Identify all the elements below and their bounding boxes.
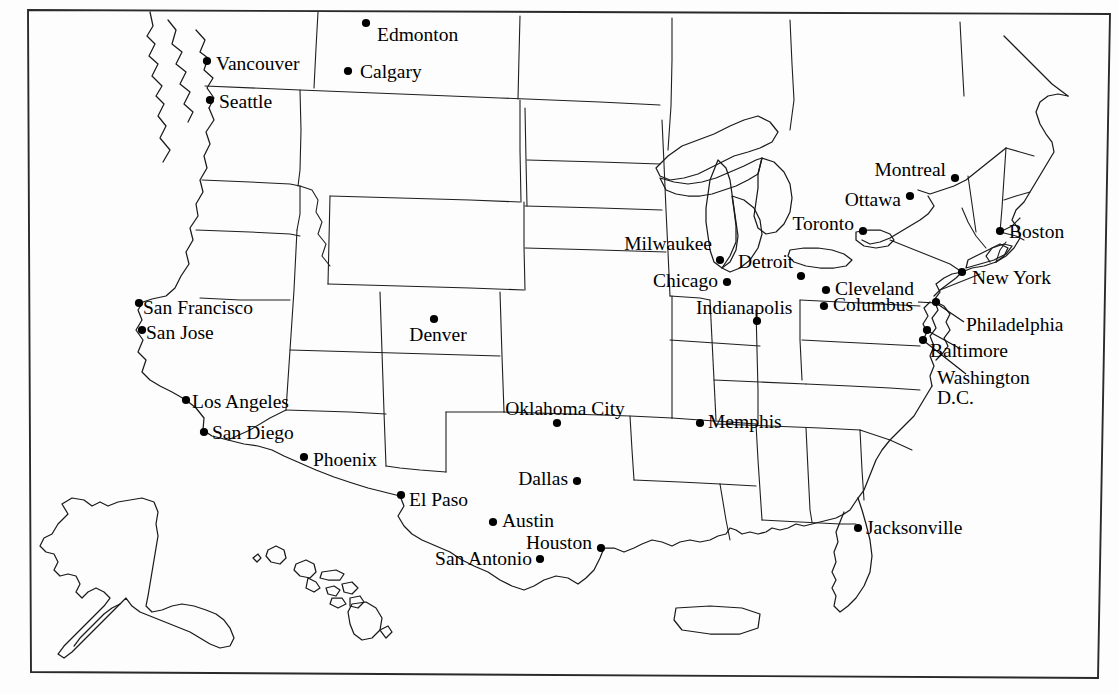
city-label-san-francisco: San Francisco xyxy=(143,298,253,318)
city-dot-vancouver[interactable] xyxy=(203,57,211,65)
city-label-detroit: Detroit xyxy=(738,252,793,272)
city-dot-calgary[interactable] xyxy=(344,67,352,75)
city-dot-san-jose[interactable] xyxy=(138,326,146,334)
city-label-calgary: Calgary xyxy=(360,62,422,82)
city-label-jacksonville: Jacksonville xyxy=(866,518,962,538)
city-label-memphis: Memphis xyxy=(708,412,782,432)
city-label-milwaukee: Milwaukee xyxy=(624,234,712,254)
city-label-oklahoma-city: Oklahoma City xyxy=(505,399,625,419)
city-label-san-diego: San Diego xyxy=(212,423,294,443)
city-dot-montreal[interactable] xyxy=(951,174,959,182)
city-label-baltimore: Baltimore xyxy=(930,341,1008,361)
city-label-new-york: New York xyxy=(972,268,1051,288)
city-dot-cleveland[interactable] xyxy=(822,286,830,294)
city-label-seattle: Seattle xyxy=(219,92,272,112)
alaska-inset xyxy=(40,498,234,658)
city-dot-boston[interactable] xyxy=(996,227,1004,235)
city-dot-houston[interactable] xyxy=(597,544,605,552)
city-dot-memphis[interactable] xyxy=(696,419,704,427)
city-label-san-antonio: San Antonio xyxy=(435,549,532,569)
city-dot-toronto[interactable] xyxy=(859,227,867,235)
city-dot-chicago[interactable] xyxy=(723,278,731,286)
city-label-vancouver: Vancouver xyxy=(216,54,299,74)
city-label-austin: Austin xyxy=(502,511,554,531)
city-dot-denver[interactable] xyxy=(430,315,438,323)
city-label-indianapolis: Indianapolis xyxy=(696,298,792,318)
city-dot-washington-d-c[interactable] xyxy=(919,336,927,344)
city-dot-phoenix[interactable] xyxy=(300,453,308,461)
city-dot-san-francisco[interactable] xyxy=(135,299,143,307)
city-label-ottawa: Ottawa xyxy=(845,190,901,210)
city-label-philadelphia: Philadelphia xyxy=(966,315,1063,335)
city-label-denver: Denver xyxy=(409,325,466,345)
city-label-boston: Boston xyxy=(1009,222,1064,242)
city-dot-milwaukee[interactable] xyxy=(716,256,724,264)
city-dot-columbus[interactable] xyxy=(820,302,828,310)
city-dot-jacksonville[interactable] xyxy=(854,524,862,532)
hawaii-inset xyxy=(253,546,392,640)
city-label-edmonton: Edmonton xyxy=(377,25,458,45)
city-dot-los-angeles[interactable] xyxy=(182,396,190,404)
city-label-dallas: Dallas xyxy=(518,469,568,489)
city-dot-seattle[interactable] xyxy=(206,96,214,104)
city-dot-dallas[interactable] xyxy=(573,477,581,485)
city-label-los-angeles: Los Angeles xyxy=(192,392,289,412)
map-container: EdmontonCalgaryVancouverSeattleMontrealO… xyxy=(0,0,1118,694)
city-dot-oklahoma-city[interactable] xyxy=(553,419,561,427)
city-dot-baltimore[interactable] xyxy=(923,326,931,334)
city-label-columbus: Columbus xyxy=(833,295,913,315)
city-dot-austin[interactable] xyxy=(489,518,497,526)
city-dot-san-antonio[interactable] xyxy=(536,555,544,563)
city-label-chicago: Chicago xyxy=(653,271,718,291)
city-label-phoenix: Phoenix xyxy=(313,450,377,470)
city-label-san-jose: San Jose xyxy=(146,323,214,343)
philadelphia-leader-line xyxy=(936,303,964,322)
city-dot-detroit[interactable] xyxy=(797,272,805,280)
puerto-rico-inset xyxy=(674,606,760,634)
city-label-el-paso: El Paso xyxy=(409,490,468,510)
city-dot-san-diego[interactable] xyxy=(200,428,208,436)
city-label-houston: Houston xyxy=(526,533,592,553)
city-dot-edmonton[interactable] xyxy=(362,19,370,27)
city-dot-ottawa[interactable] xyxy=(906,192,914,200)
city-label-washington-d-c: Washington D.C. xyxy=(937,368,1030,409)
city-label-montreal: Montreal xyxy=(875,160,946,180)
city-label-toronto: Toronto xyxy=(793,214,854,234)
city-dot-el-paso[interactable] xyxy=(397,491,405,499)
city-dot-new-york[interactable] xyxy=(958,268,966,276)
city-dot-philadelphia[interactable] xyxy=(932,298,940,306)
